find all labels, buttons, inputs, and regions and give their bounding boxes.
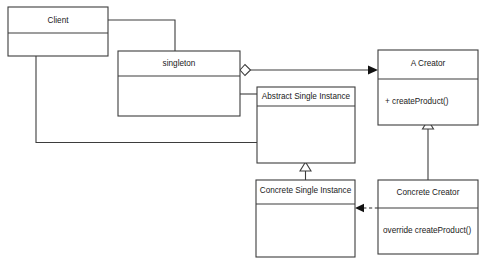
class-name-concrete-creator: Concrete Creator [397,188,460,197]
class-member-override-create-product: override createProduct() [383,226,472,235]
aggregation-diamond-icon [240,65,251,76]
arrow-head-icon [368,66,378,75]
connector-concrete-creator-creates-concrete-single-instance [355,204,378,212]
class-name-concrete-single-instance: Concrete Single Instance [260,186,352,195]
class-box-a-creator[interactable]: A Creator + createProduct() [378,50,478,125]
class-box-singleton[interactable]: singleton [118,51,240,116]
class-name-singleton: singleton [163,59,196,68]
class-member-create-product: + createProduct() [385,97,449,106]
connector-client-to-singleton [108,20,175,51]
class-name-a-creator: A Creator [411,59,446,68]
class-name-abstract-single-instance: Abstract Single Instance [262,92,351,101]
uml-class-diagram: Concrete Single Instance (dashed, solid … [0,0,490,261]
connector-concrete-single-instance-inherits-abstract [300,162,311,180]
connector-concrete-creator-inherits-a-creator [423,120,434,180]
class-box-abstract-single-instance[interactable]: Abstract Single Instance [257,87,355,163]
dependency-arrow-head-icon [355,204,364,212]
diagram-canvas: Concrete Single Instance (dashed, solid … [0,0,490,261]
class-box-client[interactable]: Client [8,7,108,56]
class-name-client: Client [48,16,70,25]
connector-singleton-aggregates-a-creator [240,65,378,76]
class-box-concrete-single-instance[interactable]: Concrete Single Instance [256,180,355,257]
class-box-concrete-creator[interactable]: Concrete Creator override createProduct(… [378,180,478,254]
